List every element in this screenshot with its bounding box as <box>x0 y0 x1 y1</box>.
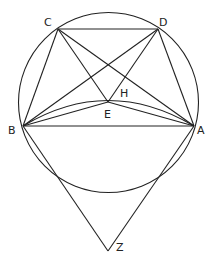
label-d: D <box>159 16 167 29</box>
geometry-diagram: C D B A E H Z <box>0 0 212 265</box>
label-h: H <box>120 87 128 100</box>
segment-az <box>108 126 194 251</box>
segment-bz <box>23 126 108 251</box>
segment-ca <box>58 29 194 126</box>
segment-be <box>23 102 108 126</box>
segment-de <box>108 29 158 102</box>
segment-ce <box>58 29 108 102</box>
label-z: Z <box>116 241 124 254</box>
segment-ae <box>108 102 194 126</box>
segment-db <box>23 29 158 126</box>
label-b: B <box>8 124 16 137</box>
label-a: A <box>197 124 205 137</box>
label-c: C <box>44 16 52 29</box>
label-e: E <box>104 108 111 121</box>
